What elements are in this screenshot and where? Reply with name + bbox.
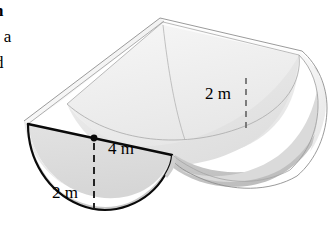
caption-line-2: s a (0, 28, 11, 45)
center-point-dot (91, 135, 98, 142)
trough-illustration (0, 0, 331, 231)
diameter-label: 4 m (108, 140, 134, 157)
caption-line-1: h (0, 2, 3, 19)
radius-label: 2 m (52, 184, 78, 201)
depth-label: 2 m (205, 85, 231, 102)
caption-line-3: d (0, 54, 4, 71)
figure-root: h s a d 4 m 2 m 2 m (0, 0, 331, 231)
